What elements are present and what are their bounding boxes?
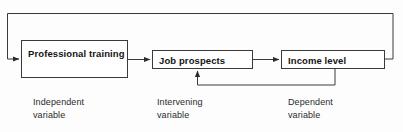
node-professional-training[interactable]: Professional training xyxy=(21,40,128,78)
connector-income-feedback-to-prospects xyxy=(198,69,336,85)
node-job-prospects-label: Job prospects xyxy=(153,54,252,67)
node-income-level-label: Income level xyxy=(282,54,384,67)
caption-independent-variable: Independent variable xyxy=(33,96,84,121)
node-job-prospects[interactable]: Job prospects xyxy=(152,50,253,69)
node-professional-training-label: Professional training xyxy=(22,47,127,60)
caption-intervening-variable: Intervening variable xyxy=(157,96,203,121)
node-income-level[interactable]: Income level xyxy=(281,50,385,69)
caption-dependent-variable: Dependent variable xyxy=(288,96,333,121)
diagram-canvas: Professional training Job prospects Inco… xyxy=(0,0,403,132)
